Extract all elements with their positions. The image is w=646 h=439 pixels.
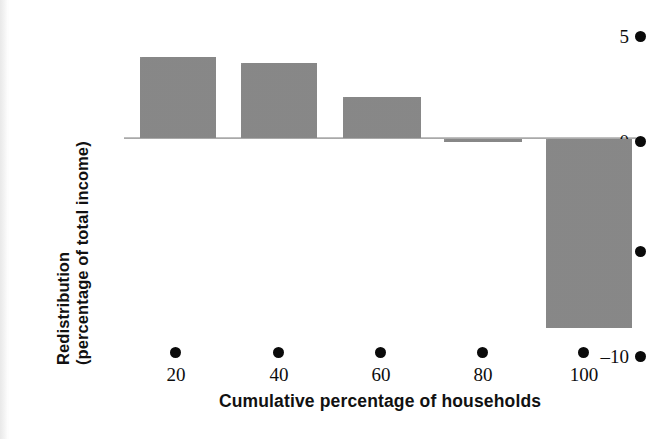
y-tick-dot-0 xyxy=(635,136,646,147)
y-tick-label-5: 5 xyxy=(620,27,630,46)
bar-40 xyxy=(241,63,317,138)
y-tick-5: 5 xyxy=(522,27,646,46)
bar-20 xyxy=(140,57,216,138)
y-tick-label-neg10: –10 xyxy=(601,347,630,366)
bar-100 xyxy=(546,139,632,328)
bar-80 xyxy=(444,139,522,142)
y-tick-dot-neg5 xyxy=(635,246,646,257)
x-tick-dot-60 xyxy=(375,347,386,358)
x-tick-label-100: 100 xyxy=(570,364,599,386)
y-tick-dot-5 xyxy=(635,31,646,42)
x-tick-dot-20 xyxy=(170,347,181,358)
chart-screenshot: Redistribution (percentage of total inco… xyxy=(0,0,646,439)
x-tick-label-20: 20 xyxy=(167,364,186,386)
x-tick-label-80: 80 xyxy=(474,364,493,386)
y-tick-dot-neg10 xyxy=(635,351,646,362)
plot-area: 5 0 –5 –10 20 40 60 80 100 xyxy=(0,0,646,439)
x-tick-dot-40 xyxy=(273,347,284,358)
x-tick-label-60: 60 xyxy=(372,364,391,386)
x-tick-dot-80 xyxy=(477,347,488,358)
x-tick-label-40: 40 xyxy=(270,364,289,386)
x-tick-dot-100 xyxy=(578,347,589,358)
x-axis-title: Cumulative percentage of households xyxy=(124,391,636,412)
bar-60 xyxy=(343,97,421,138)
